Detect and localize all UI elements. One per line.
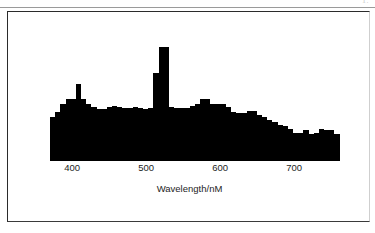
plot-area	[50, 32, 340, 161]
figure-frame: 400500600700 Wavelength/nM	[7, 11, 370, 222]
histogram-bars	[50, 32, 340, 161]
x-axis-tick-label: 500	[138, 162, 154, 173]
x-axis-tick-label: 600	[212, 162, 228, 173]
x-axis-tick-label: 700	[286, 162, 302, 173]
x-axis-title: Wavelength/nM	[8, 183, 371, 194]
page-number-artifact: 1.	[362, 0, 369, 5]
x-axis-tick-labels: 400500600700	[50, 162, 340, 178]
page-canvas: 1. 400500600700 Wavelength/nM	[0, 0, 375, 233]
histogram-bar	[334, 134, 339, 161]
x-axis-tick-label: 400	[64, 162, 80, 173]
top-horizontal-rule	[0, 7, 375, 8]
